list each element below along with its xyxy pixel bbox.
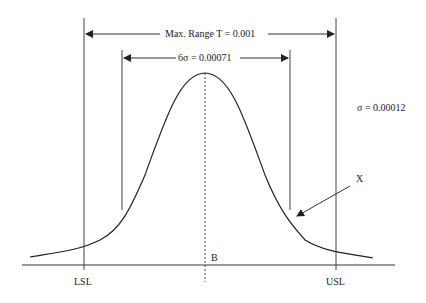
mean-label: B [211,252,218,264]
x-marker-label: X [356,173,363,185]
sigma-label: σ = 0.00012 [357,102,406,114]
max-range-label: Max. Range T = 0.001 [165,28,255,40]
lsl-label: LSL [74,276,92,288]
six-sigma-label: 6σ = 0.00071 [178,52,232,64]
bell-curve [30,73,373,258]
usl-label: USL [326,276,345,288]
x-pointer-arrow [297,186,350,216]
